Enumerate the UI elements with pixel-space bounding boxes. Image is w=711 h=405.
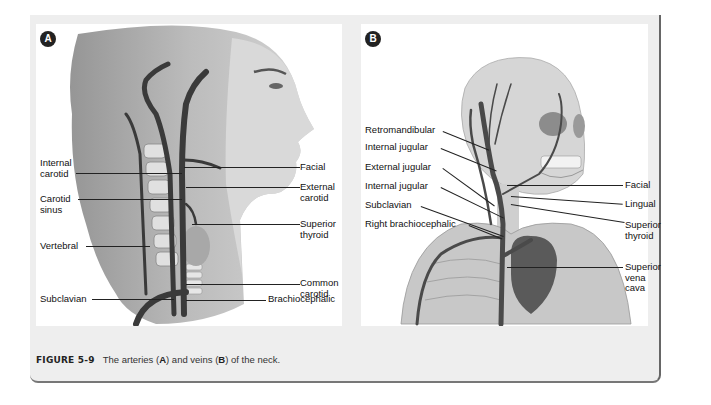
leader-line (507, 267, 623, 268)
leader-line (184, 167, 300, 168)
label-brachiocephalic: Brachiocephalic (268, 294, 335, 305)
neck-veins-illustration (361, 24, 648, 326)
leader-line (186, 187, 300, 188)
panel-a-arteries: A (36, 24, 342, 326)
label-lingual: Lingual (625, 199, 656, 210)
label-retromandibular: Retromandibular (365, 125, 435, 136)
label-internal-jugular-lower: Internal jugular (365, 181, 428, 192)
label-carotid-sinus: Carotidsinus (40, 194, 71, 215)
label-internal-carotid: Internalcarotid (40, 158, 72, 179)
label-subclavian: Subclavian (365, 200, 411, 211)
neck-arteries-illustration (36, 24, 342, 326)
label-superior-thyroid: Superiorthyroid (300, 219, 336, 240)
leader-line (192, 224, 300, 225)
label-internal-jugular-upper: Internal jugular (365, 142, 428, 153)
leader-line (86, 246, 150, 247)
label-subclavian: Subclavian (40, 294, 86, 305)
label-vertebral: Vertebral (40, 241, 78, 252)
leader-line (186, 284, 300, 285)
leader-line (76, 173, 182, 174)
label-superior-thyroid-vein: Superiorthyroid (625, 220, 661, 241)
leader-line (507, 185, 623, 186)
leader-line (78, 199, 182, 200)
label-right-brachiocephalic: Right brachiocephalic (365, 219, 456, 230)
label-external-carotid: Externalcarotid (300, 182, 335, 203)
label-superior-vena-cava: Superiorvenacava (625, 262, 661, 294)
leader-line (186, 300, 266, 301)
figure-caption: FIGURE 5-9The arteries (A) and veins (B)… (36, 354, 280, 365)
label-facial-vein: Facial (625, 180, 650, 191)
label-facial: Facial (300, 162, 325, 173)
figure-number: FIGURE 5-9 (36, 355, 95, 365)
leader-line (92, 299, 174, 300)
panel-b-veins: B Retromandibular Internal jugular (361, 24, 648, 326)
label-external-jugular: External jugular (365, 162, 431, 173)
